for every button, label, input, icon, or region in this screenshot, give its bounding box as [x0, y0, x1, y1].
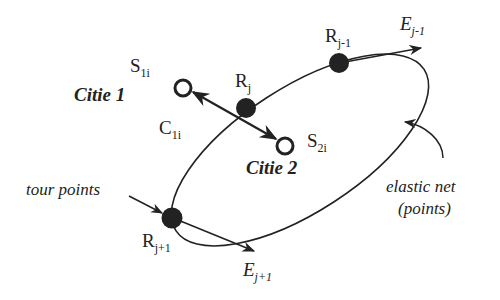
elastic-net-annotation-line1: elastic net [386, 177, 457, 196]
city-1-symbol-label: S1i [130, 55, 151, 80]
elastic-net-pointer-arrow [405, 122, 443, 158]
city-2-node [277, 138, 293, 154]
city-2-name-label: Citie 2 [246, 157, 298, 178]
tour-points-annotation: tour points [26, 180, 101, 199]
elastic-net-annotation-line2: (points) [398, 199, 451, 218]
force-ej+1-label: Ej+1 [242, 259, 272, 284]
tour-point-rj [236, 98, 256, 118]
tour-points-pointer-arrow [129, 196, 162, 213]
city-2-symbol-label: S2i [307, 130, 328, 155]
connection-label: C1i [159, 117, 182, 142]
city-1-node [175, 80, 191, 96]
tour-point-rj-label: Rj [235, 70, 251, 95]
city-1-name-label: Citie 1 [74, 84, 125, 105]
tour-point-rj-1 [329, 53, 349, 73]
elastic-net-diagram: S1i Citie 1 C1i Rj Rj-1 Ej-1 S2i Citie 2… [0, 0, 500, 300]
force-arrow-ej-1 [345, 48, 421, 62]
tour-point-rj-1-label: Rj-1 [325, 25, 351, 50]
elastic-net-ring [142, 17, 458, 282]
tour-point-rj+1-label: Rj+1 [142, 230, 171, 255]
tour-point-rj+1 [162, 208, 183, 229]
force-ej-1-label: Ej-1 [399, 13, 425, 38]
